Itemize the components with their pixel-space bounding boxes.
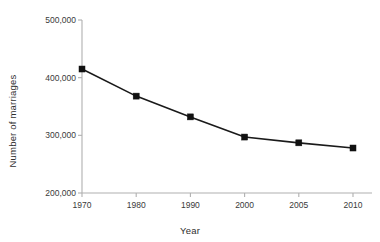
x-tick-marks [82, 193, 353, 197]
plot-area [0, 0, 380, 242]
marriages-series-line [82, 69, 353, 148]
data-point-marker [350, 145, 356, 151]
data-point-marker [133, 93, 139, 99]
data-point-marker [79, 66, 85, 72]
y-tick-marks [78, 20, 82, 193]
axes-group [82, 20, 372, 193]
marriages-line-chart: Number of marriages Year 200,000300,0004… [0, 0, 380, 242]
data-point-marker [296, 140, 302, 146]
data-point-marker [242, 134, 248, 140]
marriages-series-markers [79, 66, 356, 151]
data-point-marker [187, 114, 193, 120]
